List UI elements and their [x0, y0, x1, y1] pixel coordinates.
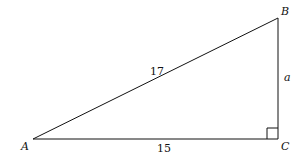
vertex-label-b: B [280, 5, 289, 18]
vertex-label-c: C [281, 140, 290, 153]
vertex-label-a: A [20, 140, 29, 153]
right-angle-marker [267, 128, 278, 139]
leg-label: a [284, 71, 291, 84]
base-label: 15 [157, 142, 171, 155]
triangle-abc [33, 18, 278, 139]
triangle-diagram: A B C 17 15 a [0, 0, 302, 168]
hypotenuse-label: 17 [150, 65, 164, 78]
